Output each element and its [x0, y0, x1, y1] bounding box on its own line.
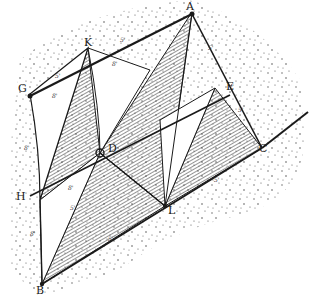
- svg-text:5': 5': [108, 235, 114, 242]
- svg-text:5': 5': [70, 204, 76, 211]
- label-e: E: [226, 80, 234, 93]
- joint-l: [163, 204, 167, 208]
- svg-text:5': 5': [55, 72, 61, 79]
- label-l: L: [168, 204, 176, 217]
- label-g: G: [18, 82, 27, 95]
- svg-text:5': 5': [208, 44, 214, 51]
- label-a: A: [185, 0, 195, 13]
- svg-text:5': 5': [238, 106, 244, 113]
- kite-diagram: A K G E D C H L B 5' 5' 8' 8' 5' 5' 8' 5…: [0, 0, 310, 297]
- joint-g: [28, 94, 33, 99]
- svg-text:8': 8': [112, 60, 118, 67]
- svg-text:5': 5': [120, 36, 126, 43]
- label-c: C: [259, 142, 267, 155]
- svg-text:8': 8': [30, 230, 36, 237]
- label-h: H: [16, 190, 26, 203]
- svg-text:8': 8': [24, 144, 30, 151]
- svg-text:8': 8': [52, 92, 58, 99]
- label-k: K: [84, 36, 93, 49]
- label-d: D: [108, 142, 117, 155]
- svg-text:8': 8': [68, 184, 74, 191]
- svg-text:5': 5': [214, 176, 220, 183]
- kite-drawing: A K G E D C H L B 5' 5' 8' 8' 5' 5' 8' 5…: [0, 0, 310, 297]
- label-b: B: [36, 284, 44, 297]
